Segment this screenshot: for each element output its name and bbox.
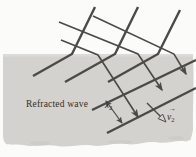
refraction-figure: Refracted wave λ2 →v2 [0,0,196,157]
refraction-diagram-canvas [0,0,196,157]
velocity-label: →v2 [167,113,174,124]
refracted-wave-label: Refracted wave [26,100,88,110]
wavelength-label: λ2 [105,101,112,112]
vector-arrow-icon: → [168,105,175,113]
velocity-subscript: 2 [171,116,174,123]
velocity-symbol: →v [167,112,171,122]
lambda-subscript: 2 [109,104,112,111]
